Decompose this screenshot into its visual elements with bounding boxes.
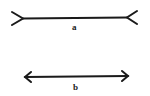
muller-lyer-figure: a b: [0, 0, 150, 96]
line-b: [25, 71, 128, 82]
label-b: b: [73, 82, 78, 92]
label-a: a: [72, 22, 77, 32]
